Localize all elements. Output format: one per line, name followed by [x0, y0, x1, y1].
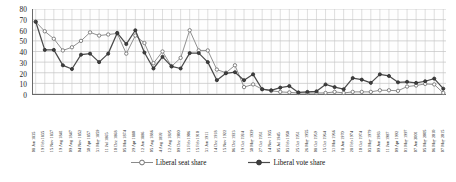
- data-point: [415, 81, 418, 84]
- y-axis-tick-10: 10: [19, 80, 27, 89]
- data-point: [288, 84, 291, 87]
- data-point: [360, 90, 363, 93]
- data-point: [369, 81, 372, 84]
- data-point: [98, 61, 101, 64]
- data-point: [270, 89, 273, 92]
- x-axis-tick-35: 28 Feb 1974: [350, 131, 354, 152]
- data-point: [70, 46, 73, 49]
- y-axis-tick-20: 20: [19, 69, 27, 78]
- x-axis-tick-27: 05 Jul 1945: [277, 132, 281, 152]
- x-axis-tick-44: 06 May 2010: [432, 129, 436, 152]
- data-point: [396, 81, 399, 84]
- x-axis-tick-2: 15 Nov 1837: [50, 130, 54, 152]
- x-axis-tick-37: 03 May 1979: [368, 129, 372, 152]
- data-point: [387, 74, 390, 77]
- data-point: [360, 78, 363, 81]
- x-axis-tick-11: 29 Apr 1880: [132, 131, 136, 152]
- data-point: [442, 87, 445, 90]
- x-axis-tick-6: 30 Apr 1857: [87, 131, 91, 152]
- x-axis-tick-19: 31 Jan 1911: [205, 132, 209, 152]
- x-axis-tick-25: 27 Oct 1931: [259, 131, 263, 152]
- x-axis-tick-22: 06 Dec 1923: [232, 130, 236, 152]
- x-axis-tick-29: 25 Oct 1951: [295, 131, 299, 152]
- data-point: [342, 91, 345, 94]
- data-point: [297, 91, 300, 94]
- x-axis-tick-24: 30 May 1929: [250, 129, 254, 152]
- x-axis-tick-12: 12 Jan 1886: [141, 131, 145, 152]
- x-axis-tick-30: 26 May 1955: [304, 129, 308, 152]
- data-point: [152, 62, 155, 65]
- data-point: [43, 30, 46, 33]
- y-axis-labels: 01020304050607080: [0, 9, 30, 95]
- data-point: [215, 79, 218, 82]
- y-axis-tick-0: 0: [23, 91, 27, 100]
- data-point: [89, 52, 92, 55]
- data-point: [206, 49, 209, 52]
- data-point: [261, 88, 264, 91]
- data-point: [125, 43, 128, 46]
- y-axis-tick-80: 80: [19, 5, 27, 14]
- data-point: [215, 68, 218, 71]
- y-axis-tick-30: 30: [19, 58, 27, 67]
- x-axis-tick-41: 01 May 1997: [404, 129, 408, 152]
- data-point: [106, 33, 109, 36]
- data-point: [405, 85, 408, 88]
- data-point: [134, 29, 137, 32]
- x-axis-tick-16: 09 Dec 1900: [177, 130, 181, 152]
- data-point: [197, 52, 200, 55]
- data-point: [288, 91, 291, 94]
- data-point: [433, 77, 436, 80]
- data-point: [387, 89, 390, 92]
- x-axis-tick-38: 09 Jun 1983: [377, 131, 381, 152]
- y-axis-tick-70: 70: [19, 15, 27, 24]
- data-point: [70, 67, 73, 70]
- x-axis-tick-39: 11 Jun 1987: [386, 131, 390, 152]
- series-layer: [33, 9, 446, 94]
- x-axis-tick-21: 15 Nov 1922: [223, 130, 227, 152]
- series-line-liberal-vote-share: [36, 22, 444, 93]
- data-point: [125, 52, 128, 55]
- data-point: [333, 90, 336, 93]
- legend-label-seat-share: Liberal seat share: [156, 159, 207, 167]
- x-axis-tick-4: 09 Aug 1847: [68, 130, 72, 152]
- x-axis-tick-5: 04 Nov 1852: [77, 130, 81, 152]
- x-axis-tick-34: 18 Jun 1970: [341, 131, 345, 152]
- data-point: [179, 56, 182, 59]
- data-point: [351, 90, 354, 93]
- data-point: [170, 65, 173, 68]
- data-point: [143, 51, 146, 54]
- data-point: [251, 83, 254, 86]
- data-point: [206, 61, 209, 64]
- data-point: [79, 53, 82, 56]
- x-axis-tick-42: 07 Jun 2001: [413, 131, 417, 152]
- x-axis-labels: 08 Jan 183519 Feb 183515 Nov 183719 Aug …: [32, 96, 446, 152]
- x-axis-tick-10: 05 Mar 1874: [123, 130, 127, 152]
- data-point: [188, 29, 191, 32]
- x-axis-tick-40: 09 Apr 1992: [395, 131, 399, 152]
- x-axis-tick-43: 05 May 2005: [422, 129, 426, 152]
- x-axis-tick-1: 19 Feb 1835: [41, 131, 45, 152]
- data-point: [43, 48, 46, 51]
- data-point: [333, 86, 336, 89]
- data-point: [279, 90, 282, 93]
- x-axis-tick-7: 31 May 1859: [96, 129, 100, 152]
- data-point: [252, 73, 255, 76]
- data-point: [61, 64, 64, 67]
- data-point: [324, 83, 327, 86]
- legend-entry-seat-share: Liberal seat share: [131, 158, 207, 167]
- x-axis-tick-45: 07 May 2015: [441, 129, 445, 152]
- data-point: [88, 31, 91, 34]
- x-axis-tick-26: 14 Nov 1935: [268, 130, 272, 152]
- x-axis-tick-32: 15 Oct 1964: [323, 131, 327, 152]
- data-point: [433, 83, 436, 86]
- x-axis-tick-15: 12 Aug 1895: [168, 130, 172, 152]
- x-axis-tick-23: 19 Oct 1924: [241, 131, 245, 152]
- x-axis-tick-8: 11 Jul 1865: [105, 132, 109, 152]
- data-point: [143, 41, 146, 44]
- x-axis-tick-13: 05 Aug 1886: [150, 130, 154, 152]
- filled-circle-marker-icon: [248, 158, 270, 167]
- data-point: [224, 72, 227, 75]
- x-axis-tick-18: 15 Feb 1910: [195, 131, 199, 152]
- data-point: [161, 50, 164, 53]
- y-axis-tick-50: 50: [19, 37, 27, 46]
